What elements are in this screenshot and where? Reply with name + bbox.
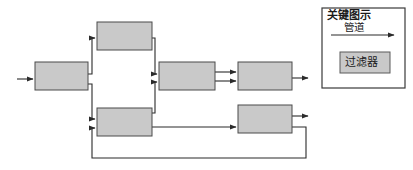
legend-filter-label: 过滤器 <box>345 57 378 68</box>
diagram-canvas: 关键图示 管道 过滤器 <box>0 0 413 170</box>
legend-pipe-label: 管道 <box>344 22 364 33</box>
filter-box-bottom-right[interactable] <box>238 105 292 133</box>
filter-box-input[interactable] <box>35 62 88 90</box>
filter-box-bottom-left[interactable] <box>97 108 152 136</box>
filter-box-right[interactable] <box>238 62 292 90</box>
filter-box-top[interactable] <box>97 22 152 50</box>
pipe-bottom-left-to-middle <box>152 82 157 113</box>
pipe-input-to-bottom-left <box>88 84 95 119</box>
pipe-input-to-top <box>88 38 95 74</box>
filter-box-middle[interactable] <box>159 62 215 90</box>
pipe-top-to-middle <box>152 38 157 74</box>
legend-title: 关键图示 <box>327 10 371 21</box>
